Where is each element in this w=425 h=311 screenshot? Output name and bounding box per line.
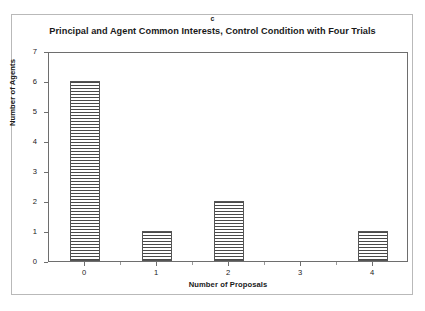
x-axis-tick-label: 2 (208, 268, 248, 277)
x-axis-tick-label: 4 (352, 268, 392, 277)
x-axis-minor-tick-mark (264, 262, 265, 265)
y-axis-tick-label: 6 (33, 77, 37, 86)
y-axis-tick-label: 0 (33, 257, 37, 266)
x-axis-tick-mark (300, 262, 301, 266)
x-axis-minor-tick-mark (120, 262, 121, 265)
x-axis-tick-label: 3 (280, 268, 320, 277)
plot-area (48, 52, 408, 262)
y-axis-tick: 3 (0, 172, 48, 173)
bar (142, 231, 172, 261)
bars-container (49, 53, 407, 261)
y-axis-tick-label: 5 (33, 107, 37, 116)
panel-label: c (0, 15, 425, 23)
y-axis-tick-mark (44, 262, 48, 263)
x-axis-tick-label: 1 (136, 268, 176, 277)
y-axis-tick-label: 3 (33, 167, 37, 176)
y-axis-tick-label: 4 (33, 137, 37, 146)
x-axis-tick-mark (372, 262, 373, 266)
x-axis-tick-mark (228, 262, 229, 266)
y-axis-tick: 5 (0, 112, 48, 113)
y-axis-tick: 0 (0, 262, 48, 263)
x-axis-label: Number of Proposals (48, 280, 408, 289)
bar (358, 231, 388, 261)
y-axis-tick-label: 2 (33, 197, 37, 206)
y-axis-tick: 7 (0, 52, 48, 53)
y-axis-tick: 2 (0, 202, 48, 203)
bar (70, 81, 100, 261)
y-axis-tick-label: 1 (33, 227, 37, 236)
x-axis-tick-label: 0 (64, 268, 104, 277)
y-axis-label: Number of Agents (8, 33, 17, 153)
chart-title: Principal and Agent Common Interests, Co… (0, 26, 425, 37)
x-axis-minor-tick-mark (192, 262, 193, 265)
figure-root: c Principal and Agent Common Interests, … (0, 0, 425, 311)
x-axis-minor-tick-mark (336, 262, 337, 265)
y-axis-tick-label: 7 (33, 47, 37, 56)
y-axis-tick: 6 (0, 82, 48, 83)
y-axis-tick: 4 (0, 142, 48, 143)
x-axis-tick-mark (156, 262, 157, 266)
x-axis-tick-mark (84, 262, 85, 266)
bar (214, 201, 244, 261)
y-axis-tick: 1 (0, 232, 48, 233)
